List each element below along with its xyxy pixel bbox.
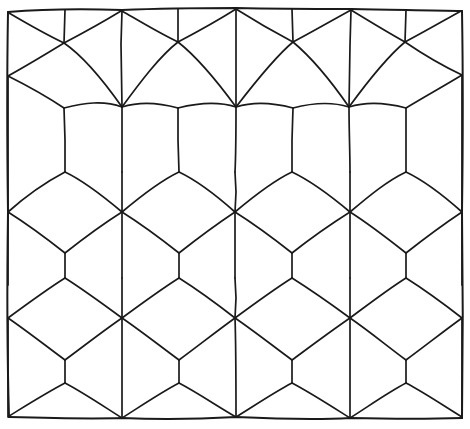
edge-vertical bbox=[64, 10, 65, 43]
lattice-diagonal bbox=[8, 76, 64, 108]
lattice-diagonal bbox=[349, 42, 405, 107]
lattice-vertical bbox=[235, 278, 236, 318]
lattice-diagonal bbox=[406, 318, 462, 360]
edge-diagonal bbox=[64, 11, 121, 43]
edge-diagonal bbox=[122, 11, 178, 42]
lattice-diagonal bbox=[8, 278, 65, 318]
lattice-diagonal bbox=[235, 172, 292, 212]
lattice-diagonal bbox=[122, 172, 179, 212]
edge-diagonal bbox=[292, 383, 350, 418]
lattice-diagonal bbox=[65, 278, 122, 318]
lattice-diagonal bbox=[405, 42, 462, 75]
frame-right-edge bbox=[462, 11, 463, 418]
lattice-diagonal bbox=[122, 278, 179, 318]
lattice-diagonal bbox=[292, 212, 350, 253]
lattice-diagonal bbox=[8, 172, 65, 212]
edge-diagonal bbox=[236, 9, 293, 42]
lattice-diagonal bbox=[349, 107, 350, 172]
edge-diagonal bbox=[178, 9, 236, 42]
lattice-vertical bbox=[292, 108, 293, 172]
edge-diagonal bbox=[293, 10, 351, 42]
lattice-diagonal bbox=[179, 172, 235, 212]
lattice-diagonal bbox=[236, 42, 293, 107]
edge-diagonal bbox=[65, 383, 122, 418]
lattice-diagonal bbox=[349, 103, 406, 108]
lattice-group bbox=[8, 9, 462, 418]
lattice-diagonal bbox=[122, 318, 179, 360]
lattice-diagonal bbox=[65, 318, 122, 360]
lattice-diagonal bbox=[406, 172, 462, 212]
lattice-band-3 bbox=[8, 172, 462, 212]
lattice-vertical bbox=[235, 318, 236, 417]
lattice-diagonal bbox=[235, 212, 292, 253]
frame-bottom-edge bbox=[9, 417, 462, 419]
lattice-diagonal bbox=[65, 172, 122, 212]
lattice-band-5 bbox=[8, 278, 462, 318]
lattice-diagonal bbox=[178, 42, 236, 107]
edge-diagonal bbox=[9, 13, 64, 43]
lattice-vertical bbox=[64, 108, 65, 172]
edge-vertical bbox=[405, 10, 406, 42]
lattice-diagonal bbox=[292, 318, 350, 360]
lattice-diagonal bbox=[292, 278, 350, 318]
lattice-band-6 bbox=[8, 318, 462, 418]
rhombille-tiling-illustration bbox=[0, 0, 470, 429]
lattice-vertical bbox=[121, 11, 122, 107]
lattice-diagonal bbox=[64, 43, 122, 107]
lattice-vertical bbox=[235, 172, 236, 212]
lattice-diagonal bbox=[350, 212, 406, 253]
lattice-diagonal bbox=[178, 103, 236, 108]
lattice-diagonal bbox=[122, 103, 178, 108]
lattice-diagonal bbox=[65, 212, 122, 253]
lattice-diagonal bbox=[179, 318, 235, 360]
drawing-canvas: A hand-drawn black-and-white tessellatio… bbox=[0, 0, 470, 429]
lattice-diagonal bbox=[8, 43, 64, 76]
lattice-diagonal bbox=[8, 318, 65, 360]
lattice-band-1 bbox=[8, 9, 462, 108]
lattice-diagonal bbox=[293, 42, 349, 107]
lattice-diagonal bbox=[179, 212, 235, 253]
lattice-diagonal bbox=[235, 107, 236, 172]
edge-diagonal bbox=[350, 383, 406, 418]
edge-diagonal bbox=[9, 383, 65, 416]
edge-diagonal bbox=[236, 383, 292, 417]
lattice-diagonal bbox=[406, 75, 462, 108]
edge-diagonal bbox=[179, 383, 236, 417]
lattice-band-4 bbox=[8, 212, 462, 285]
lattice-band-0 bbox=[9, 9, 461, 43]
lattice-vertical bbox=[178, 108, 179, 172]
edge-diagonal bbox=[405, 11, 461, 42]
lattice-diagonal bbox=[350, 318, 406, 360]
lattice-diagonal bbox=[8, 212, 65, 253]
lattice-diagonal bbox=[179, 278, 235, 318]
edge-diagonal bbox=[351, 10, 405, 42]
edge-diagonal bbox=[122, 383, 179, 418]
lattice-diagonal bbox=[350, 278, 406, 318]
lattice-diagonal bbox=[235, 278, 292, 318]
lattice-band-2 bbox=[8, 75, 462, 212]
lattice-diagonal bbox=[293, 103, 349, 108]
lattice-diagonal bbox=[122, 212, 179, 253]
lattice-diagonal bbox=[235, 318, 292, 360]
lattice-diagonal bbox=[64, 103, 122, 108]
lattice-diagonal bbox=[406, 212, 462, 253]
lattice-diagonal bbox=[350, 172, 406, 212]
lattice-diagonal bbox=[122, 42, 178, 107]
lattice-diagonal bbox=[406, 278, 462, 318]
lattice-diagonal bbox=[236, 103, 293, 108]
lattice-vertical bbox=[349, 10, 351, 107]
edge-diagonal bbox=[406, 383, 462, 417]
edge-vertical bbox=[292, 9, 293, 42]
lattice-diagonal bbox=[292, 172, 350, 212]
